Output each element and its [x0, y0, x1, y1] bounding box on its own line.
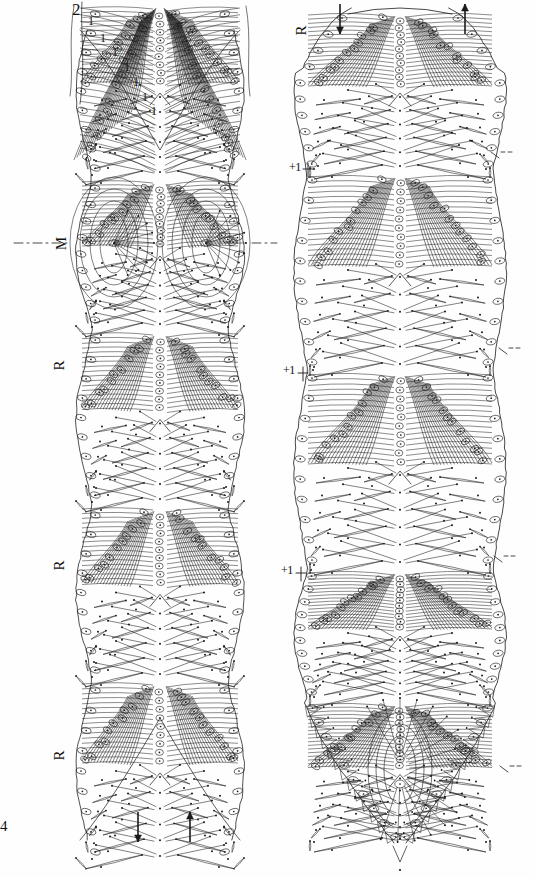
pore-dot [467, 572, 469, 574]
pore-dot [159, 141, 161, 143]
socket-pore [82, 270, 84, 272]
lanceolate-seta [176, 310, 226, 323]
seta-tip-dot [121, 125, 123, 127]
seta-base-dot [213, 287, 215, 289]
seta-tip-dot [127, 793, 129, 795]
pore-dot [221, 811, 223, 813]
pore-dot [332, 727, 334, 729]
socket-pore [398, 615, 400, 617]
seta-tip-dot [109, 479, 111, 481]
net-weft [308, 611, 394, 615]
seta-tip-dot [185, 778, 187, 780]
lanceolate-seta [470, 817, 488, 825]
socket-pore [398, 746, 400, 748]
socket-pore [459, 231, 461, 233]
pore-dot [399, 491, 401, 493]
seta-tip-dot [354, 508, 356, 510]
socket-pore [309, 66, 311, 68]
pore-dot [426, 790, 428, 792]
socket-pore [497, 114, 499, 116]
socket-pore [129, 24, 131, 26]
seta-tip-dot [451, 663, 453, 665]
socket-pore [205, 215, 207, 217]
seta-line [404, 509, 445, 525]
socket-pore [382, 16, 384, 18]
pore-dot [93, 313, 95, 315]
pore-dot [347, 682, 349, 684]
lanceolate-seta [316, 279, 360, 285]
lanceolate-seta [489, 366, 491, 376]
label-increment-1: +1 [289, 160, 301, 175]
socket-pore [494, 519, 496, 521]
socket-pore [475, 760, 477, 762]
seta-line [108, 446, 154, 455]
seta-tip-dot [99, 829, 101, 831]
socket-pore [233, 378, 235, 380]
pore-dot [477, 653, 479, 655]
socket-pore [90, 145, 92, 147]
seta-tip-dot [107, 445, 109, 447]
seta-tip-dot [111, 265, 113, 267]
seta-base-dot [439, 278, 441, 280]
seta-tip-dot [327, 671, 329, 673]
label-series-1-d: 1 [124, 60, 130, 75]
seta-line [355, 311, 396, 327]
seta-line [406, 335, 472, 347]
lanceolate-seta [194, 601, 226, 608]
seta-tip-dot [137, 269, 139, 271]
socket-pore [145, 688, 147, 690]
socket-pore [111, 380, 113, 382]
lanceolate-seta [232, 842, 234, 852]
pore-dot [135, 787, 137, 789]
seta-base-dot [407, 638, 409, 640]
socket-pore [448, 45, 450, 47]
seta-tip-dot [451, 524, 453, 526]
pore-dot [319, 314, 321, 316]
seta-tip-dot [107, 800, 109, 802]
seta-line [369, 636, 396, 649]
seta-tip-dot [354, 310, 356, 312]
seta-line [206, 243, 230, 270]
socket-pore [190, 200, 192, 202]
pore-dot [159, 792, 161, 794]
seta-line [206, 243, 244, 253]
lanceolate-seta [194, 426, 226, 433]
left-panel-sockets [76, 10, 245, 856]
seta-tip-dot [430, 95, 432, 97]
pore-dot [93, 661, 95, 663]
lanceolate-seta [94, 262, 126, 269]
seta-base-dot [309, 695, 311, 697]
socket-pore [210, 557, 212, 559]
seta-base-dot [233, 485, 235, 487]
seta-tip-dot [203, 770, 205, 772]
seta-line [108, 621, 154, 630]
seta-tip-dot [229, 269, 231, 271]
socket-pore [85, 286, 87, 288]
label-series-1-c: 1 [112, 45, 118, 60]
socket-pore [497, 652, 499, 654]
pore-dot [197, 137, 199, 139]
pore-dot [211, 494, 213, 496]
seta-line [164, 305, 210, 323]
socket-pore [474, 76, 476, 78]
seta-line [134, 425, 156, 437]
pore-dot [372, 790, 374, 792]
seta-line [404, 311, 445, 327]
pore-dot [485, 168, 487, 170]
socket-pore [481, 79, 483, 81]
seta-line [355, 509, 396, 525]
socket-pore [194, 537, 196, 539]
arrow-up-right-head [462, 4, 469, 11]
socket-pore [193, 203, 195, 205]
socket-pore [90, 359, 92, 361]
socket-pore [350, 220, 352, 222]
pore-dot [101, 779, 103, 781]
socket-pore [346, 52, 348, 54]
socket-pore [146, 17, 148, 19]
socket-pore [94, 339, 96, 341]
seta-tip-dot [115, 821, 117, 823]
seta-tip-dot [471, 671, 473, 673]
seta-line [164, 641, 204, 657]
socket-pore [447, 416, 449, 418]
socket-pore [335, 614, 337, 616]
